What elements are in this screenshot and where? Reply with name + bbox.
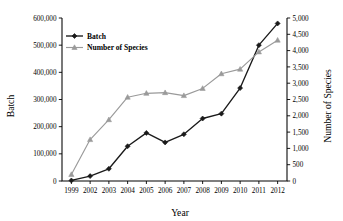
x-axis-tick-label: 2012 — [270, 187, 285, 195]
y-axis-right-tick-label: 1,500 — [293, 129, 310, 137]
y-axis-left-tick-label: 100,000 — [33, 150, 57, 158]
x-axis-tick-label: 2011 — [252, 187, 267, 195]
y-axis-left-tick-label: 600,000 — [33, 15, 57, 23]
series-markers-number-of-species — [69, 37, 280, 176]
x-axis-tick-label: 2010 — [233, 187, 248, 195]
chart-container: 0100,000200,000300,000400,000500,000600,… — [0, 0, 343, 221]
y-axis-right-tick-label: 5,000 — [293, 15, 310, 23]
y-axis-right-tick-label: 2,500 — [293, 96, 310, 104]
y-axis-right-ticks: 05001,0001,5002,0002,5003,0003,5004,0004… — [287, 15, 309, 186]
x-axis-tick-label: 1999 — [64, 187, 79, 195]
y-axis-right-tick-label: 4,000 — [293, 47, 310, 55]
series-line-number-of-species — [71, 40, 277, 174]
x-axis-tick-label: 2009 — [214, 187, 229, 195]
legend-label: Number of Species — [87, 43, 148, 52]
chart-legend: BatchNumber of Species — [66, 32, 148, 53]
y-axis-right-tick-label: 3,500 — [293, 64, 310, 72]
data-point — [69, 178, 74, 183]
data-point — [163, 140, 168, 145]
x-axis-tick-label: 2006 — [158, 187, 173, 195]
y-axis-left-title: Batch — [5, 95, 16, 118]
y-axis-right-tick-label: 500 — [293, 161, 304, 169]
x-axis-tick-label: 2008 — [195, 187, 210, 195]
x-axis-tick-label: 2003 — [102, 187, 117, 195]
x-axis-tick-label: 2004 — [120, 187, 135, 195]
y-axis-left-tick-label: 200,000 — [33, 123, 57, 131]
y-axis-left-tick-label: 400,000 — [33, 69, 57, 77]
data-point — [88, 174, 93, 179]
y-axis-right-tick-label: 4,500 — [293, 31, 310, 39]
y-axis-right-tick-label: 1,000 — [293, 145, 310, 153]
x-axis-ticks: 1999200220032004200520062007200820092010… — [64, 181, 285, 195]
legend-marker — [72, 34, 77, 39]
x-axis-tick-label: 2007 — [177, 187, 192, 195]
y-axis-left-tick-label: 300,000 — [33, 96, 57, 104]
line-chart: 0100,000200,000300,000400,000500,000600,… — [0, 0, 343, 221]
data-point — [275, 37, 280, 42]
y-axis-right-tick-label: 2,000 — [293, 112, 310, 120]
x-axis-title: Year — [171, 207, 189, 218]
data-point — [69, 172, 74, 177]
y-axis-left-tick-label: 0 — [53, 178, 57, 186]
y-axis-right-title: Number of Species — [322, 69, 333, 143]
x-axis-tick-label: 2005 — [139, 187, 154, 195]
y-axis-right-tick-label: 3,000 — [293, 80, 310, 88]
y-axis-left-ticks: 0100,000200,000300,000400,000500,000600,… — [33, 15, 62, 186]
legend-label: Batch — [87, 32, 107, 41]
y-axis-right-tick-label: 0 — [293, 178, 297, 186]
y-axis-left-tick-label: 500,000 — [33, 42, 57, 50]
x-axis-tick-label: 2002 — [83, 187, 98, 195]
